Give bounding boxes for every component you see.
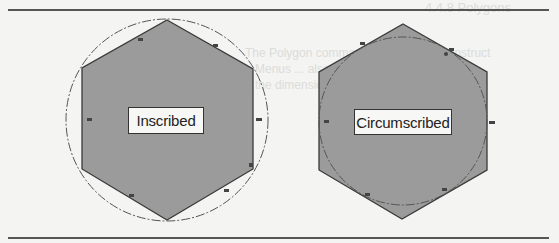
grip-handle-icon bbox=[249, 163, 253, 167]
grip-handle-icon bbox=[360, 42, 365, 45]
diagram-canvas bbox=[0, 0, 559, 243]
grip-handle-icon bbox=[129, 194, 134, 197]
grip-handle-icon bbox=[138, 38, 143, 41]
grip-handle-icon bbox=[324, 120, 329, 123]
polygon-figure: 4.4.8 Polygons The Polygon command is lo… bbox=[0, 0, 559, 243]
grip-handle-icon bbox=[444, 52, 448, 56]
circumscribed-label: Circumscribed bbox=[354, 109, 452, 135]
grip-handle-icon bbox=[87, 118, 92, 121]
grip-handle-icon bbox=[256, 118, 262, 121]
grip-handle-icon bbox=[213, 44, 218, 47]
grip-handle-icon bbox=[224, 189, 229, 192]
grip-handle-icon bbox=[365, 193, 370, 196]
grip-handle-icon bbox=[449, 48, 454, 51]
inscribed-label: Inscribed bbox=[128, 107, 204, 134]
grip-handle-icon bbox=[489, 121, 495, 124]
grip-handle-icon bbox=[442, 188, 447, 191]
